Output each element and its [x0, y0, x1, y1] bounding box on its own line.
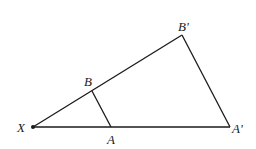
- label-x: X: [16, 120, 26, 135]
- segment-b-prime-a-prime: [182, 35, 230, 127]
- label-a-prime: A': [231, 121, 243, 136]
- segment-x-b-prime: [33, 35, 182, 127]
- label-b: B: [84, 74, 92, 89]
- segment-b-a: [92, 91, 111, 127]
- similar-triangles-diagram: X A A' B B': [0, 0, 256, 149]
- label-b-prime: B': [178, 19, 189, 34]
- label-a: A: [106, 132, 115, 147]
- point-x-dot: [31, 125, 35, 129]
